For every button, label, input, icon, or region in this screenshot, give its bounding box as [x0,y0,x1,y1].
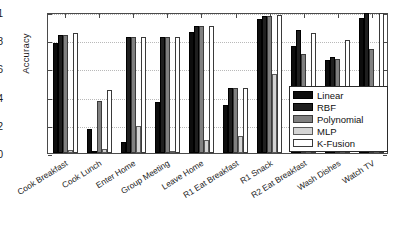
legend-label: MLP [317,126,337,137]
y-axis-label: Accuracy [20,9,31,99]
legend-label: K-Fusion [317,138,355,149]
bar [175,37,180,153]
y-tick-mark [48,155,52,156]
legend-item: Linear [293,89,384,101]
legend-item: RBF [293,101,384,113]
legend-swatch-icon [293,115,313,123]
bar [73,33,78,153]
legend-item: MLP [293,125,384,137]
bar [87,129,92,153]
bar-group [82,14,116,153]
legend-label: Polynomial [317,114,363,125]
bar-group [253,14,287,153]
y-tick-label: 0.2 [0,120,3,131]
y-tick-label: 0.8 [0,36,3,47]
bar [277,15,282,153]
bar-group [116,14,150,153]
bar-group [48,14,82,153]
chart-legend: LinearRBFPolynomialMLPK-Fusion [289,86,388,152]
bar [209,26,214,153]
legend-item: K-Fusion [293,137,384,149]
legend-label: RBF [317,102,336,113]
bar-group [184,14,218,153]
bar [97,101,102,153]
legend-swatch-icon [293,91,313,99]
legend-item: Polynomial [293,113,384,125]
legend-swatch-icon [293,127,313,135]
y-tick-label: 0.4 [0,92,3,103]
bar [141,37,146,153]
legend-label: Linear [317,90,343,101]
bar [107,90,112,153]
bar [243,88,248,153]
y-tick-mark [383,155,387,156]
bar [199,26,204,153]
bar-group [219,14,253,153]
legend-swatch-icon [293,103,313,111]
bar [165,37,170,153]
bar [63,35,68,153]
legend-swatch-icon [293,139,313,147]
y-tick-label: 0 [0,149,3,160]
y-tick-label: 0.6 [0,64,3,75]
bar-group [150,14,184,153]
y-tick-label: 1 [0,8,3,19]
accuracy-bar-chart: Accuracy 00.20.40.60.81 Cook BreakfastCo… [0,0,395,236]
